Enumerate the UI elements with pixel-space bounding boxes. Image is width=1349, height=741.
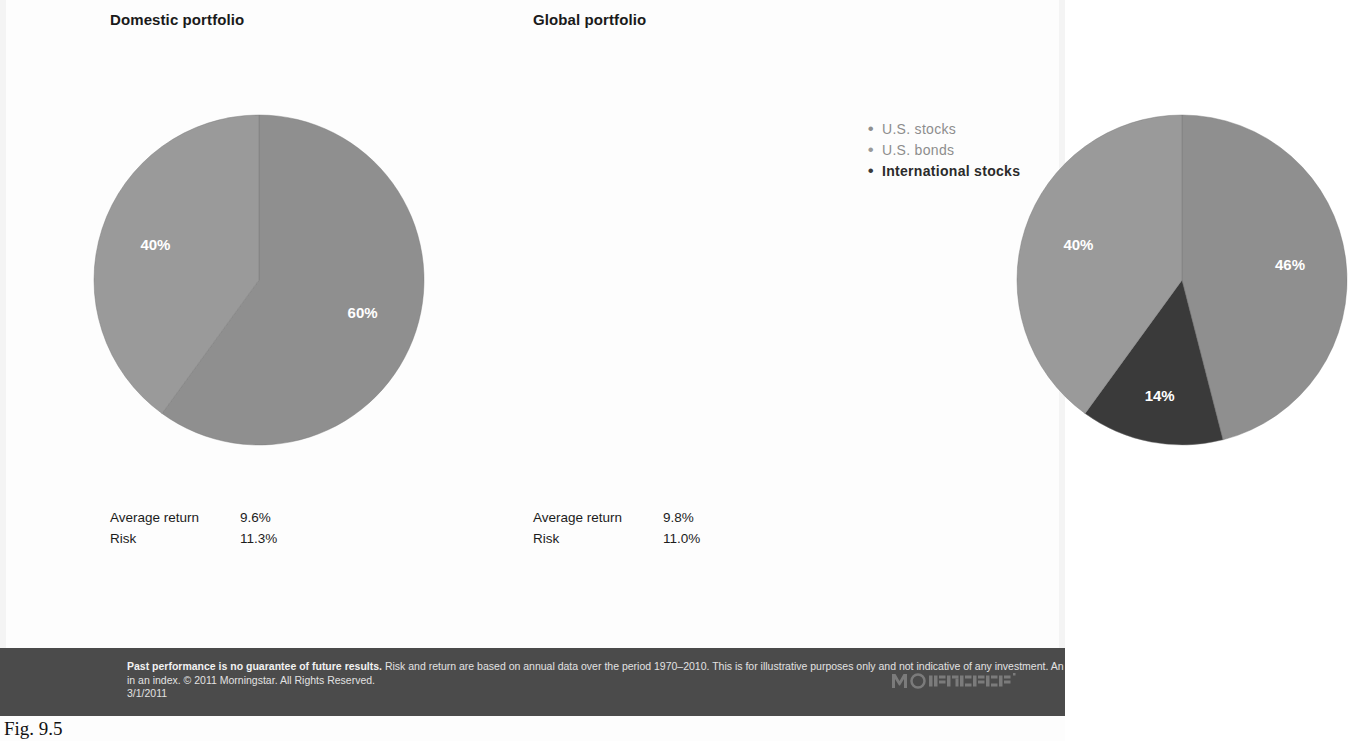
stat-row: Risk 11.3% bbox=[110, 531, 277, 552]
stat-row: Risk 11.0% bbox=[533, 531, 700, 552]
chart-legend: • U.S. stocks • U.S. bonds • Internation… bbox=[866, 118, 1056, 181]
stat-label: Risk bbox=[110, 531, 240, 546]
stat-label: Average return bbox=[110, 510, 240, 525]
legend-bullet-icon: • bbox=[866, 166, 876, 176]
stat-row: Average return 9.6% bbox=[110, 510, 277, 531]
stat-value: 9.8% bbox=[663, 510, 694, 525]
pie-slice-value-label: 40% bbox=[1063, 236, 1093, 253]
legend-item-us-bonds: • U.S. bonds bbox=[866, 139, 1056, 160]
stat-label: Risk bbox=[533, 531, 663, 546]
panel-domestic-portfolio: Domestic portfolio 60%40% Average return… bbox=[0, 0, 500, 640]
pie-svg-global: 46%14%40% bbox=[1015, 113, 1349, 447]
stat-value: 11.3% bbox=[240, 531, 277, 546]
stat-value: 11.0% bbox=[663, 531, 700, 546]
legend-item-label: U.S. stocks bbox=[882, 122, 956, 136]
legend-item-label: U.S. bonds bbox=[882, 143, 954, 157]
legend-item-us-stocks: • U.S. stocks bbox=[866, 118, 1056, 139]
panel-global-portfolio: Global portfolio 46%14%40% Average retur… bbox=[500, 0, 1065, 640]
stat-row: Average return 9.8% bbox=[533, 510, 700, 531]
pie-slice-value-label: 60% bbox=[348, 304, 378, 321]
pie-slice-value-label: 46% bbox=[1275, 256, 1305, 273]
footer-disclaimer-bar: Past performance is no guarantee of futu… bbox=[0, 648, 1065, 716]
pie-chart-global: 46%14%40% bbox=[1015, 113, 1349, 447]
panel-title-domestic: Domestic portfolio bbox=[110, 11, 244, 28]
morningstar-logo-icon bbox=[891, 670, 1023, 692]
pie-svg-domestic: 60%40% bbox=[92, 113, 426, 447]
pie-slice-value-label: 40% bbox=[140, 236, 170, 253]
legend-bullet-icon: • bbox=[866, 124, 876, 134]
legend-item-international-stocks: • International stocks bbox=[866, 160, 1056, 181]
pie-slice-value-label: 14% bbox=[1145, 387, 1175, 404]
pie-chart-domestic: 60%40% bbox=[92, 113, 426, 447]
footer-lead-text: Past performance is no guarantee of futu… bbox=[127, 660, 382, 672]
stats-global: Average return 9.8% Risk 11.0% bbox=[533, 510, 700, 552]
stat-label: Average return bbox=[533, 510, 663, 525]
stats-domestic: Average return 9.6% Risk 11.3% bbox=[110, 510, 277, 552]
stat-value: 9.6% bbox=[240, 510, 271, 525]
panel-title-global: Global portfolio bbox=[533, 11, 646, 28]
figure-caption: Fig. 9.5 bbox=[4, 718, 63, 739]
legend-item-label: International stocks bbox=[882, 164, 1020, 178]
legend-bullet-icon: • bbox=[866, 145, 876, 155]
